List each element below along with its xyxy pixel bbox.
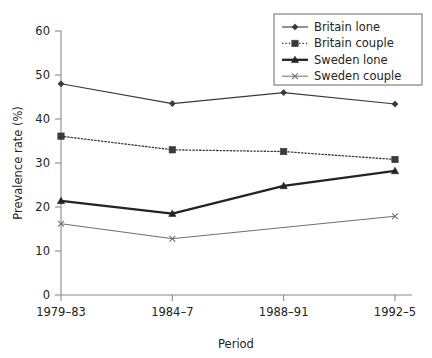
legend-label: Sweden couple	[314, 69, 401, 83]
series-line	[61, 136, 395, 159]
x-tick-label: 1984–7	[151, 305, 193, 319]
y-tick-label: 30	[35, 156, 50, 170]
series-sweden-couple	[58, 213, 398, 241]
legend-label: Britain couple	[314, 36, 394, 50]
y-tick-label: 0	[43, 288, 50, 302]
y-tick-label: 60	[35, 24, 50, 38]
data-point-marker-diamond	[392, 101, 398, 107]
data-point-marker-square	[280, 148, 286, 154]
y-tick-label: 10	[35, 244, 50, 258]
data-series-group	[57, 81, 398, 242]
data-point-marker-square	[169, 147, 175, 153]
series-line	[61, 171, 395, 214]
x-axis-title: Period	[218, 337, 254, 351]
data-point-marker-square	[392, 156, 398, 162]
series-line	[61, 216, 395, 238]
y-axis-ticks	[55, 31, 61, 295]
chart-container: 0102030405060 1979–831984–71988–911992–5…	[0, 0, 432, 358]
y-tick-label: 50	[35, 68, 50, 82]
y-tick-label: 40	[35, 112, 50, 126]
series-sweden-lone	[57, 167, 398, 216]
x-axis-ticks	[61, 295, 395, 301]
x-tick-label: 1988–91	[259, 305, 309, 319]
data-point-marker-square	[58, 133, 64, 139]
data-point-marker-diamond	[169, 101, 175, 107]
data-point-marker-diamond	[281, 90, 287, 96]
y-tick-label: 20	[35, 200, 50, 214]
y-axis-title: Prevalence rate (%)	[11, 106, 25, 220]
legend-label: Sweden lone	[314, 53, 388, 67]
series-line	[61, 84, 395, 104]
data-point-marker-diamond	[58, 81, 64, 87]
line-chart: 0102030405060 1979–831984–71988–911992–5…	[0, 0, 432, 358]
legend-label: Britain lone	[314, 20, 380, 34]
x-axis-tick-labels: 1979–831984–71988–911992–5	[36, 305, 416, 319]
chart-legend: Britain loneBritain coupleSweden loneSwe…	[274, 14, 422, 85]
series-britain-couple	[58, 133, 398, 163]
data-point-marker-square	[292, 40, 298, 46]
x-tick-label: 1979–83	[36, 305, 86, 319]
x-tick-label: 1992–5	[374, 305, 416, 319]
y-axis-tick-labels: 0102030405060	[35, 24, 50, 302]
